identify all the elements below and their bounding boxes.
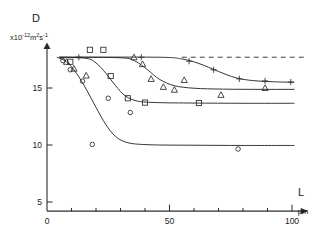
y-tick-label: 10 bbox=[33, 140, 43, 150]
triangle-series-point bbox=[218, 92, 224, 98]
circle-series-point bbox=[90, 142, 95, 147]
plus-series-point bbox=[138, 54, 144, 60]
diffusivity-vs-length-chart: 51015050100Dx10-12m2s-1Lμm bbox=[0, 0, 317, 241]
triangle-series-point bbox=[148, 76, 154, 82]
plus-series-point bbox=[262, 78, 268, 84]
plus-series-point bbox=[211, 67, 217, 73]
triangle-series-point bbox=[171, 87, 177, 93]
plus-series-point bbox=[186, 58, 192, 64]
square-series-curve bbox=[59, 57, 294, 103]
plus-series-point bbox=[236, 76, 242, 82]
y-axis-arrowhead bbox=[44, 43, 51, 50]
y-tick-label: 15 bbox=[33, 83, 43, 93]
chart-canvas: 51015050100Dx10-12m2s-1Lμm bbox=[0, 0, 317, 241]
square-series-point bbox=[101, 47, 106, 52]
circle-series-point bbox=[236, 147, 241, 152]
y-axis-name: D bbox=[32, 12, 40, 24]
plus-series-point bbox=[76, 54, 82, 60]
triangle-series-point bbox=[83, 72, 89, 78]
triangle-series-point bbox=[181, 77, 187, 83]
circle-series-curve bbox=[57, 57, 295, 145]
plus-series-point bbox=[288, 79, 294, 85]
square-series-point bbox=[87, 47, 92, 52]
square-series-point bbox=[108, 73, 113, 78]
x-tick-label: 50 bbox=[165, 216, 175, 226]
x-tick-label: 0 bbox=[45, 216, 50, 226]
x-tick-label: 100 bbox=[285, 216, 299, 226]
circle-series-point bbox=[128, 110, 133, 115]
plus-series-curve bbox=[59, 57, 294, 82]
triangle-series-point bbox=[160, 84, 166, 90]
x-axis-name: L bbox=[298, 186, 304, 198]
circle-series-point bbox=[106, 96, 111, 101]
x-axis-units: μm bbox=[298, 207, 309, 216]
y-axis-units: x10-12m2s-1 bbox=[10, 32, 48, 43]
y-tick-label: 5 bbox=[37, 197, 42, 207]
